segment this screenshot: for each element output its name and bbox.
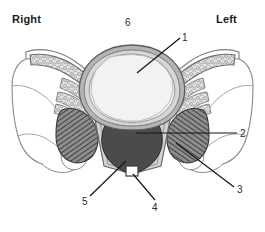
leader-line-4 [133,174,155,200]
callout-number-4: 4 [152,202,158,213]
coccyx-segment [126,166,138,176]
vertebral-body [79,45,185,130]
anatomy-illustration [0,0,265,232]
callout-number-6: 6 [125,17,131,28]
anatomical-figure: Right Left 6 1 2 3 4 5 [0,0,265,232]
callout-number-5: 5 [82,196,88,207]
callout-number-1: 1 [182,32,188,43]
orientation-label-left: Left [216,13,237,25]
orientation-label-right: Right [12,13,41,25]
callout-number-3: 3 [237,184,243,195]
callout-number-2: 2 [240,128,246,139]
